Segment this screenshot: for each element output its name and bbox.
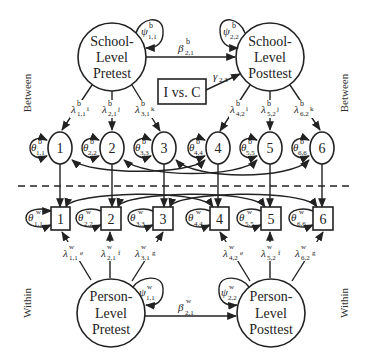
svg-text:w: w (229, 283, 235, 291)
between-indicator-4: θ b 4,4 4 (188, 132, 230, 164)
svg-text:b: b (248, 137, 252, 146)
svg-text:3,1: 3,1 (141, 110, 150, 118)
svg-text:b: b (186, 37, 190, 46)
svg-text:λ: λ (294, 247, 300, 259)
svg-text:3: 3 (161, 141, 168, 156)
svg-text:λ: λ (70, 103, 76, 115)
svg-text:ψ: ψ (141, 25, 148, 37)
svg-text:5,2: 5,2 (267, 110, 276, 118)
svg-text:2,3: 2,3 (219, 76, 228, 84)
svg-text:3: 3 (160, 212, 167, 227)
svg-text:β: β (177, 42, 184, 54)
multilevel-sem-diagram: Between Between Within Within School- Le… (0, 0, 366, 360)
svg-text:School-: School- (90, 34, 134, 49)
svg-text:λ: λ (134, 247, 140, 259)
svg-text:Posttest: Posttest (248, 66, 292, 81)
between-indicator-3: θ b 3,3 3 (134, 132, 176, 164)
svg-text:ψ: ψ (221, 286, 228, 298)
svg-text:3,3: 3,3 (140, 149, 149, 157)
between-left-label: Between (21, 73, 33, 112)
svg-text:w: w (147, 283, 153, 291)
svg-text:1,1: 1,1 (69, 254, 78, 262)
svg-text:6,2: 6,2 (301, 254, 310, 262)
between-indicator-5: θ b 5,5 5 (240, 132, 282, 164)
svg-text:3,1: 3,1 (141, 254, 150, 262)
svg-text:b: b (232, 21, 236, 30)
between-indicator-6: θ b 6,6 6 (292, 132, 334, 164)
svg-text:b: b (77, 99, 81, 108)
svg-text:j: j (276, 105, 279, 113)
svg-text:Pretest: Pretest (93, 66, 131, 81)
svg-text:Person-: Person- (250, 289, 293, 304)
svg-text:b: b (149, 21, 153, 30)
svg-text:b: b (196, 137, 200, 146)
svg-text:e: e (80, 249, 83, 257)
within-indicator-6: θ w 6,6 6 (289, 207, 333, 230)
svg-text:Level: Level (254, 50, 286, 65)
svg-text:6,2: 6,2 (300, 110, 309, 118)
svg-text:j: j (117, 105, 120, 113)
svg-text:Person-: Person- (90, 289, 133, 304)
svg-text:i: i (246, 105, 248, 113)
svg-text:2: 2 (109, 141, 116, 156)
svg-text:Posttest: Posttest (249, 322, 293, 337)
svg-text:4: 4 (216, 212, 223, 227)
school-posttest-node: School- Level Posttest (236, 23, 304, 91)
svg-text:b: b (108, 99, 112, 108)
intervention-vs-control-box: I vs. C (158, 79, 206, 104)
svg-text:2,2: 2,2 (228, 294, 237, 302)
within-right-label: Within (338, 287, 350, 318)
within-left-label: Within (21, 287, 33, 318)
svg-text:6: 6 (319, 141, 326, 156)
svg-text:6,6: 6,6 (297, 220, 306, 228)
person-posttest-node: Person- Level Posttest (237, 279, 305, 347)
between-indicators: θ b 1,1 1 θ b 2,2 2 θ b 3,3 3 θ b (30, 132, 334, 164)
svg-text:Pretest: Pretest (92, 322, 130, 337)
svg-text:b: b (142, 137, 146, 146)
within-indicator-4: θ w 4,4 4 (186, 207, 229, 230)
within-loadings: λ w 1,1 e λ w 2,1 f λ w 3,1 g λ w 4,2 e … (62, 232, 323, 281)
school-pretest-node: School- Level Pretest (78, 23, 146, 91)
svg-text:e: e (240, 249, 243, 257)
within-indicators: θ w 1,1 1 θ w 2,2 2 θ w 3,3 3 θ w 4,4 (26, 207, 333, 230)
svg-text:λ: λ (229, 103, 235, 115)
svg-text:2,2: 2,2 (230, 33, 239, 41)
svg-text:1,1: 1,1 (34, 220, 43, 228)
svg-text:1,1: 1,1 (148, 33, 157, 41)
svg-text:5,2: 5,2 (267, 254, 276, 262)
svg-text:w: w (186, 297, 192, 305)
svg-text:b: b (236, 99, 240, 108)
between-right-label: Between (338, 73, 350, 112)
within-indicator-2: θ w 2,2 2 (76, 207, 121, 230)
svg-text:3,3: 3,3 (136, 220, 145, 228)
within-residual-covariances (66, 194, 317, 207)
svg-text:4,4: 4,4 (194, 220, 203, 228)
svg-text:2,1: 2,1 (185, 309, 194, 317)
svg-text:k: k (151, 105, 155, 113)
svg-text:Level: Level (96, 50, 128, 65)
svg-text:6: 6 (320, 212, 327, 227)
svg-text:λ: λ (260, 247, 266, 259)
svg-text:1,1: 1,1 (146, 294, 155, 302)
svg-text:5,5: 5,5 (246, 149, 255, 157)
svg-text:2,2: 2,2 (88, 149, 97, 157)
svg-text:b: b (300, 137, 304, 146)
within-indicator-1: θ w 1,1 1 (26, 207, 70, 230)
svg-text:1: 1 (57, 141, 64, 156)
svg-text:λ: λ (100, 247, 106, 259)
svg-text:b: b (300, 99, 304, 108)
svg-text:k: k (310, 105, 314, 113)
svg-text:5: 5 (268, 212, 275, 227)
svg-text:2: 2 (108, 212, 115, 227)
between-indicator-2: θ b 2,2 2 (82, 132, 124, 164)
svg-text:2,1: 2,1 (185, 49, 194, 57)
svg-text:β: β (177, 301, 184, 313)
svg-text:λ: λ (134, 103, 140, 115)
svg-text:4: 4 (215, 141, 222, 156)
svg-text:4,4: 4,4 (194, 149, 203, 157)
between-indicator-1: θ b 1,1 1 (30, 132, 72, 164)
within-indicator-5: θ w 5,5 5 (237, 207, 281, 230)
svg-text:4,2: 4,2 (236, 110, 245, 118)
gamma-path: γ 2,3 (206, 70, 240, 90)
svg-text:4,2: 4,2 (229, 254, 238, 262)
